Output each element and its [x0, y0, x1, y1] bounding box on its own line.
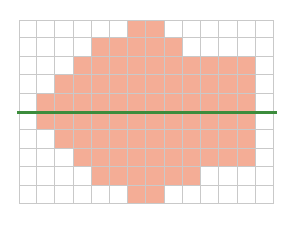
- grid-cell: [128, 57, 146, 75]
- grid-cell: [183, 112, 201, 130]
- grid-cell: [165, 130, 183, 148]
- grid-cell: [128, 38, 146, 56]
- grid-cell: [219, 75, 237, 93]
- grid-cell: [74, 130, 92, 148]
- grid-cell: [110, 94, 128, 112]
- grid-cell: [165, 57, 183, 75]
- grid-cell: [37, 186, 55, 204]
- grid-cell: [128, 75, 146, 93]
- grid-cell: [238, 94, 256, 112]
- grid-cell: [128, 94, 146, 112]
- grid-cell: [110, 38, 128, 56]
- grid-cell: [92, 186, 110, 204]
- grid-cell: [92, 94, 110, 112]
- grid-cell: [37, 130, 55, 148]
- grid-cell: [256, 112, 274, 130]
- grid-cell: [37, 149, 55, 167]
- grid-cell: [219, 57, 237, 75]
- grid-cell: [238, 112, 256, 130]
- grid-cell: [201, 75, 219, 93]
- grid-cell: [128, 167, 146, 185]
- grid-cell: [201, 20, 219, 38]
- grid-cell: [146, 149, 164, 167]
- grid-cell: [238, 149, 256, 167]
- grid-cell: [110, 112, 128, 130]
- grid-cell: [74, 20, 92, 38]
- grid-cell: [92, 20, 110, 38]
- grid-cell: [37, 38, 55, 56]
- grid-cell: [92, 57, 110, 75]
- grid-cell: [183, 94, 201, 112]
- grid-cell: [19, 112, 37, 130]
- grid-cell: [37, 112, 55, 130]
- grid-cell: [92, 38, 110, 56]
- grid-cell: [201, 167, 219, 185]
- grid-cell: [110, 75, 128, 93]
- grid-cell: [146, 167, 164, 185]
- grid-cell: [165, 38, 183, 56]
- grid-cell: [183, 186, 201, 204]
- grid-cell: [256, 94, 274, 112]
- grid-cell: [165, 75, 183, 93]
- grid-cell: [165, 20, 183, 38]
- grid-cell: [37, 167, 55, 185]
- grid-cell: [55, 38, 73, 56]
- grid-cell: [201, 94, 219, 112]
- grid-cell: [92, 112, 110, 130]
- grid-cell: [256, 75, 274, 93]
- grid-cell: [128, 186, 146, 204]
- grid-cell: [183, 38, 201, 56]
- grid-cell: [37, 75, 55, 93]
- grid-cell: [256, 149, 274, 167]
- grid-cell: [55, 75, 73, 93]
- grid-cell: [219, 149, 237, 167]
- grid-cell: [219, 38, 237, 56]
- grid-cell: [55, 57, 73, 75]
- grid-cell: [128, 130, 146, 148]
- grid-cell: [92, 167, 110, 185]
- grid-cell: [219, 112, 237, 130]
- grid-cell: [201, 38, 219, 56]
- grid-cell: [110, 186, 128, 204]
- grid-cell: [55, 112, 73, 130]
- grid-cell: [146, 130, 164, 148]
- grid-cell: [219, 186, 237, 204]
- grid-cell: [183, 75, 201, 93]
- grid-cell: [74, 112, 92, 130]
- screenshot-root: [0, 0, 293, 228]
- grid-cell: [74, 149, 92, 167]
- grid-cell: [19, 75, 37, 93]
- grid-cell: [110, 149, 128, 167]
- grid-cell: [256, 167, 274, 185]
- grid-cell: [92, 75, 110, 93]
- grid-cell: [74, 75, 92, 93]
- grid-cell: [256, 20, 274, 38]
- grid-cell: [37, 94, 55, 112]
- plot-area: [0, 0, 293, 228]
- horizontal-reference-line: [17, 111, 277, 114]
- grid-cell: [165, 149, 183, 167]
- grid-cell: [201, 186, 219, 204]
- grid-cell: [74, 186, 92, 204]
- grid-cell: [146, 20, 164, 38]
- grid-cell: [219, 20, 237, 38]
- grid-cell: [55, 130, 73, 148]
- grid-cell: [19, 167, 37, 185]
- grid-cell: [92, 130, 110, 148]
- grid-cell: [165, 186, 183, 204]
- grid-cell: [219, 94, 237, 112]
- grid-cell: [128, 20, 146, 38]
- grid-cell: [19, 57, 37, 75]
- grid-cell: [219, 167, 237, 185]
- grid-cell: [183, 130, 201, 148]
- grid-cell: [19, 149, 37, 167]
- grid-cell: [238, 130, 256, 148]
- grid-cell: [238, 75, 256, 93]
- grid-cell: [256, 57, 274, 75]
- grid-cell: [146, 186, 164, 204]
- grid-cell: [256, 38, 274, 56]
- grid-cell: [165, 112, 183, 130]
- grid-cell: [201, 57, 219, 75]
- grid-cell: [110, 130, 128, 148]
- grid-cell: [238, 186, 256, 204]
